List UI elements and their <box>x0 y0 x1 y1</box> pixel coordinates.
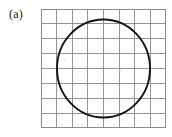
figure-panel: (a) <box>0 0 172 137</box>
speck <box>119 70 120 71</box>
speck <box>87 77 88 78</box>
speck <box>64 59 65 60</box>
speck <box>77 104 78 105</box>
figure-svg <box>41 9 166 128</box>
grid-with-circle-figure <box>41 9 166 128</box>
speck <box>139 53 141 55</box>
speck <box>150 39 151 40</box>
speck <box>101 26 102 27</box>
speck <box>132 96 133 97</box>
panel-label: (a) <box>9 7 23 21</box>
